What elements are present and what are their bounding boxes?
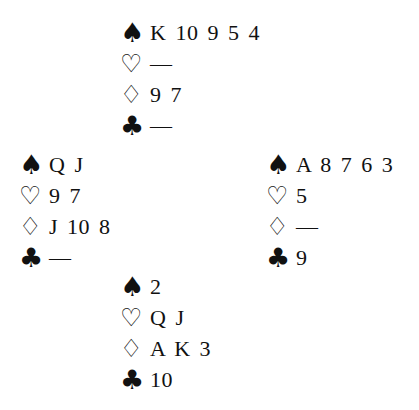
- north-hand: ♠ K 10 9 5 4 ♡ — ♢ 9 7 ♣ —: [120, 17, 260, 141]
- south-hearts-row: ♡ Q J: [120, 302, 211, 333]
- diamond-icon: ♢: [120, 82, 150, 107]
- east-clubs-row: ♣ 9: [266, 242, 393, 273]
- west-diamonds-row: ♢ J 10 8: [19, 211, 111, 242]
- south-diamonds-row: ♢ A K 3: [120, 333, 211, 364]
- east-hand: ♠ A 8 7 6 3 ♡ 5 ♢ — ♣ 9: [266, 149, 393, 273]
- south-spades-row: ♠ 2: [120, 271, 211, 302]
- spade-icon: ♠: [120, 19, 150, 46]
- spade-icon: ♠: [266, 151, 296, 178]
- south-spades-cards: 2: [150, 276, 162, 298]
- north-spades-cards: K 10 9 5 4: [150, 22, 260, 44]
- north-spades-row: ♠ K 10 9 5 4: [120, 17, 260, 48]
- diamond-icon: ♢: [120, 336, 150, 361]
- west-hand: ♠ Q J ♡ 9 7 ♢ J 10 8 ♣ —: [19, 149, 111, 273]
- east-spades-row: ♠ A 8 7 6 3: [266, 149, 393, 180]
- club-icon: ♣: [266, 244, 296, 271]
- club-icon: ♣: [120, 112, 150, 139]
- east-hearts-row: ♡ 5: [266, 180, 393, 211]
- diamond-icon: ♢: [19, 214, 49, 239]
- west-spades-cards: Q J: [49, 154, 83, 176]
- heart-icon: ♡: [266, 183, 296, 208]
- west-hearts-row: ♡ 9 7: [19, 180, 111, 211]
- west-clubs-cards: —: [49, 247, 72, 269]
- spade-icon: ♠: [19, 151, 49, 178]
- north-clubs-cards: —: [150, 115, 173, 137]
- west-diamonds-cards: J 10 8: [49, 216, 111, 238]
- east-diamonds-cards: —: [296, 216, 319, 238]
- south-hearts-cards: Q J: [150, 307, 184, 329]
- west-spades-row: ♠ Q J: [19, 149, 111, 180]
- west-hearts-cards: 9 7: [49, 185, 81, 207]
- club-icon: ♣: [120, 366, 150, 393]
- north-diamonds-cards: 9 7: [150, 84, 182, 106]
- south-clubs-cards: 10: [150, 369, 173, 391]
- north-hearts-row: ♡ —: [120, 48, 260, 79]
- south-diamonds-cards: A K 3: [150, 338, 211, 360]
- south-clubs-row: ♣ 10: [120, 364, 211, 395]
- north-clubs-row: ♣ —: [120, 110, 260, 141]
- east-diamonds-row: ♢ —: [266, 211, 393, 242]
- club-icon: ♣: [19, 244, 49, 271]
- west-clubs-row: ♣ —: [19, 242, 111, 273]
- east-hearts-cards: 5: [296, 185, 308, 207]
- heart-icon: ♡: [19, 183, 49, 208]
- heart-icon: ♡: [120, 305, 150, 330]
- heart-icon: ♡: [120, 51, 150, 76]
- spade-icon: ♠: [120, 273, 150, 300]
- north-hearts-cards: —: [150, 53, 173, 75]
- east-spades-cards: A 8 7 6 3: [296, 154, 393, 176]
- diamond-icon: ♢: [266, 214, 296, 239]
- north-diamonds-row: ♢ 9 7: [120, 79, 260, 110]
- south-hand: ♠ 2 ♡ Q J ♢ A K 3 ♣ 10: [120, 271, 211, 395]
- east-clubs-cards: 9: [296, 247, 308, 269]
